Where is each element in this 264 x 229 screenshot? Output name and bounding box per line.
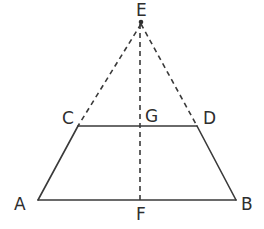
- vertex-label-c: C: [62, 110, 74, 127]
- segment-a-c: [38, 126, 78, 200]
- segment-e-c-dashed: [78, 24, 141, 126]
- vertex-label-f: F: [136, 206, 146, 223]
- vertex-label-d: D: [203, 110, 216, 127]
- geometry-diagram: E C G D A F B: [0, 0, 264, 229]
- apex-point-marker: [139, 20, 144, 25]
- vertex-label-g: G: [145, 108, 158, 125]
- vertex-label-b: B: [241, 196, 253, 213]
- vertex-label-e: E: [136, 2, 147, 19]
- vertex-label-a: A: [14, 196, 26, 213]
- segment-d-b: [197, 126, 236, 200]
- diagram-canvas: [0, 0, 264, 229]
